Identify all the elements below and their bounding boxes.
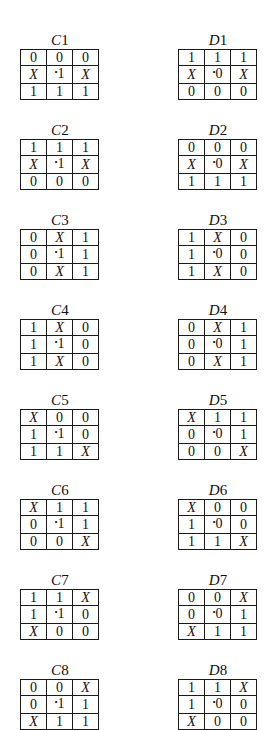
grid-row: 000: [21, 50, 99, 66]
grid-cell: X: [205, 230, 231, 246]
grid-block-c3: C30X10•110X1: [20, 213, 100, 280]
grid-row: 00X: [179, 444, 257, 460]
grid-row: 0•01: [179, 606, 257, 624]
grid-row: 1X0: [179, 230, 257, 246]
grid-cell: 0: [47, 534, 73, 550]
grid-cell: 0: [21, 246, 47, 264]
grid-cell: 0: [179, 590, 205, 606]
grid-cell: X: [179, 500, 205, 516]
grid-block-c6: C6X110•1100X: [20, 483, 100, 550]
grid-cell: X: [231, 66, 257, 84]
grid-cell: 1: [179, 680, 205, 696]
grid-cell: 1: [179, 516, 205, 534]
grid-cell: 1: [205, 410, 231, 426]
grid-cell: X: [47, 354, 73, 370]
grid-row: 0•11: [21, 516, 99, 534]
grid-cell: 0: [179, 336, 205, 354]
grid-cell: 0: [47, 410, 73, 426]
grid-block-d4: D40X10•010X1: [178, 303, 258, 370]
grid-cell: 1: [179, 534, 205, 550]
grid-cell: X: [47, 264, 73, 280]
grid-cell: 0: [21, 696, 47, 714]
grid-row: 1•00: [179, 246, 257, 264]
center-dot-icon: •: [54, 427, 57, 437]
grid-cell: 0: [205, 714, 231, 730]
grid-row: X11: [179, 624, 257, 640]
grid-cell: X: [73, 534, 99, 550]
grid-title: D7: [178, 573, 258, 589]
grid-cell: 1: [179, 696, 205, 714]
grid-cell: 0: [73, 336, 99, 354]
grid-cell: 1: [21, 336, 47, 354]
center-dot-icon: •: [54, 337, 57, 347]
grid-table: 1X01•001X0: [178, 229, 257, 280]
grid-row: 000: [179, 140, 257, 156]
grid-cell: 1: [179, 50, 205, 66]
grid-table: 11X1•10X00: [20, 589, 99, 640]
grid-cell: 1: [73, 246, 99, 264]
grid-cell: 0: [21, 516, 47, 534]
grid-cell: 1: [47, 590, 73, 606]
grid-cell: X: [205, 320, 231, 336]
grid-cell: X: [179, 410, 205, 426]
grid-cell: X: [21, 714, 47, 730]
grid-cell: 0: [231, 696, 257, 714]
grid-row: 00X: [21, 680, 99, 696]
grid-row: 111: [179, 50, 257, 66]
grid-cell: X: [231, 680, 257, 696]
grid-cell: 1: [21, 590, 47, 606]
center-dot-icon: •: [212, 697, 215, 707]
grid-cell: X: [21, 624, 47, 640]
grid-cell: 0: [179, 84, 205, 100]
grid-block-d5: D5X110•0100X: [178, 393, 258, 460]
center-dot-icon: •: [212, 517, 215, 527]
grid-cell: X: [73, 444, 99, 460]
grid-title: C3: [20, 213, 100, 229]
grid-cell: •1: [47, 516, 73, 534]
center-dot-icon: •: [212, 337, 215, 347]
grid-title: C7: [20, 573, 100, 589]
grid-cell: 0: [73, 624, 99, 640]
grid-row: 0•11: [21, 246, 99, 264]
grid-cell: X: [47, 230, 73, 246]
grid-cell: 1: [73, 230, 99, 246]
grid-cell: 1: [47, 500, 73, 516]
grid-cell: •0: [205, 516, 231, 534]
grid-cell: 1: [73, 516, 99, 534]
grid-cell: 1: [73, 714, 99, 730]
grid-row: X11: [179, 410, 257, 426]
grid-cell: •1: [47, 696, 73, 714]
grid-cell: X: [205, 264, 231, 280]
grid-cell: •0: [205, 246, 231, 264]
grid-row: 000: [21, 174, 99, 190]
grid-cell: 1: [179, 264, 205, 280]
grid-table: X110•1100X: [20, 499, 99, 550]
grid-title: D6: [178, 483, 258, 499]
grid-table: 00X0•11X11: [20, 679, 99, 730]
grid-cell: 1: [231, 174, 257, 190]
grid-cell: 0: [73, 320, 99, 336]
grid-row: 0X1: [179, 320, 257, 336]
grid-cell: 0: [73, 354, 99, 370]
grid-block-c2: C2111X•1X000: [20, 123, 100, 190]
grid-row: 1X0: [21, 354, 99, 370]
grid-cell: •1: [47, 606, 73, 624]
grid-cell: 1: [205, 50, 231, 66]
grid-block-c8: C800X0•11X11: [20, 663, 100, 730]
grid-title: D2: [178, 123, 258, 139]
grid-cell: X: [231, 590, 257, 606]
grid-row: X00: [21, 624, 99, 640]
grid-title: D4: [178, 303, 258, 319]
grid-cell: 0: [179, 606, 205, 624]
grid-row: 1•00: [179, 696, 257, 714]
grid-row: X•1X: [21, 66, 99, 84]
grid-cell: X: [231, 444, 257, 460]
grid-row: 1X0: [21, 320, 99, 336]
grid-row: X00: [179, 714, 257, 730]
grid-title: C5: [20, 393, 100, 409]
grid-row: 0•11: [21, 696, 99, 714]
grid-cell: X: [21, 500, 47, 516]
grid-cell: 1: [205, 624, 231, 640]
grid-row: X11: [21, 714, 99, 730]
grid-table: 000X•0X111: [178, 139, 257, 190]
